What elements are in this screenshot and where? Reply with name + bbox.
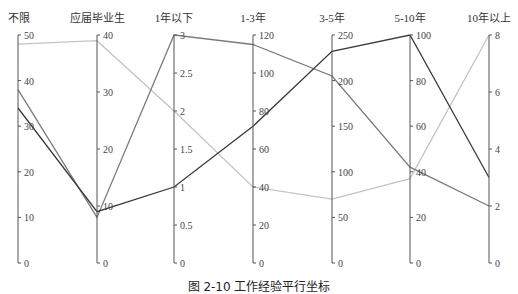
tick-label: 6	[495, 87, 500, 98]
axis-title: 1年以下	[155, 11, 194, 24]
tick-label: 3	[180, 30, 185, 41]
tick-label: 40	[259, 182, 269, 193]
axis-title: 应届毕业生	[70, 11, 125, 24]
tick-label: 150	[338, 121, 353, 132]
tick-label: 80	[259, 106, 269, 117]
tick-label: 0	[103, 258, 108, 269]
axis-6: 10年以上02468	[467, 11, 511, 269]
tick-label: 0	[24, 258, 29, 269]
tick-label: 0.5	[180, 220, 193, 231]
tick-label: 200	[338, 76, 353, 87]
axis-0: 不限01020304050	[8, 12, 34, 269]
axis-5: 5-10年020406080100	[394, 11, 431, 269]
tick-label: 2	[495, 201, 500, 212]
tick-label: 20	[24, 167, 34, 178]
tick-label: 2	[180, 106, 185, 117]
tick-label: 60	[259, 144, 269, 155]
tick-label: 30	[103, 87, 113, 98]
tick-label: 60	[416, 121, 426, 132]
tick-label: 100	[416, 30, 431, 41]
axis-title: 不限	[8, 12, 30, 24]
tick-label: 0	[180, 258, 185, 269]
axis-1: 应届毕业生010203040	[70, 11, 125, 269]
tick-label: 20	[416, 212, 426, 223]
tick-label: 40	[416, 167, 426, 178]
tick-label: 10	[24, 212, 34, 223]
axis-title: 5-10年	[394, 11, 425, 24]
tick-label: 8	[495, 30, 500, 41]
tick-label: 30	[24, 121, 34, 132]
tick-label: 0	[416, 258, 421, 269]
tick-label: 20	[259, 220, 269, 231]
tick-label: 80	[416, 76, 426, 87]
axis-2: 1年以下00.511.522.53	[155, 11, 194, 269]
figure-caption: 图 2-10 工作经验平行坐标	[0, 277, 518, 294]
tick-label: 0	[495, 258, 500, 269]
tick-label: 1.5	[180, 144, 193, 155]
tick-label: 250	[338, 30, 353, 41]
tick-label: 100	[259, 68, 274, 79]
tick-label: 4	[495, 144, 500, 155]
tick-label: 1	[180, 182, 185, 193]
tick-label: 20	[103, 144, 113, 155]
tick-label: 10	[103, 201, 113, 212]
axis-title: 3-5年	[319, 11, 345, 24]
tick-label: 2.5	[180, 68, 193, 79]
axis-title: 1-3年	[240, 11, 266, 24]
tick-label: 40	[103, 30, 113, 41]
axis-4: 3-5年050100150200250	[319, 11, 353, 269]
tick-label: 40	[24, 76, 34, 87]
tick-label: 50	[338, 212, 348, 223]
tick-label: 120	[259, 30, 274, 41]
tick-label: 0	[259, 258, 264, 269]
axis-title: 10年以上	[467, 11, 511, 24]
tick-label: 100	[338, 167, 353, 178]
axis-3: 1-3年020406080100120	[240, 11, 274, 269]
tick-label: 50	[24, 30, 34, 41]
tick-label: 0	[338, 258, 343, 269]
